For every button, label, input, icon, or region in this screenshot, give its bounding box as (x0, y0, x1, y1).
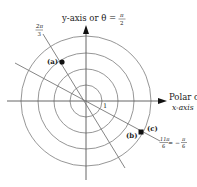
y-axis-frac-den: 2 (120, 20, 124, 26)
point-a-label: (a) (47, 57, 58, 66)
ray-11pi-over-6 (15, 63, 160, 141)
x-axis-arrow-icon (158, 98, 167, 104)
x-axis-label-line1: Polar or (169, 92, 197, 102)
ray-11pi6-alt-den: 6 (182, 143, 185, 149)
point-bc (139, 130, 144, 135)
ray-11pi6-equals: = − (168, 139, 180, 146)
ray-2pi3-den: 3 (38, 31, 42, 37)
point-b-label: (b) (126, 131, 138, 140)
ray-2pi3-num: 2π (35, 23, 43, 29)
ray-11pi6-alt-num: π (181, 136, 186, 142)
ray-11pi6-den: 6 (162, 143, 165, 149)
y-axis-arrow-icon (83, 25, 89, 34)
polar-diagram: y-axis or θ = π 2 Polar or x-axis 2π 3 1… (0, 0, 197, 187)
unit-label: 1 (103, 102, 107, 110)
axes (7, 33, 160, 180)
point-a (59, 59, 64, 64)
y-axis-label: y-axis or θ = (61, 13, 116, 23)
y-axis-frac-num: π (119, 12, 124, 18)
x-axis-label-line2: x-axis (172, 103, 194, 112)
point-c-label: (c) (147, 124, 158, 133)
